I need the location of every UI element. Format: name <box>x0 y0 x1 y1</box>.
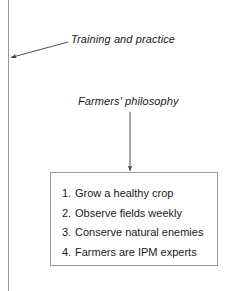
list-item-number: 1. <box>62 184 75 204</box>
training-to-margin-arrow <box>11 42 68 58</box>
list-item-number: 2. <box>62 204 75 224</box>
list-item-number: 3. <box>62 223 75 243</box>
list-item-text: Grow a healthy crop <box>75 187 173 199</box>
list-item-text: Conserve natural enemies <box>75 226 203 238</box>
list-item-number: 4. <box>62 243 75 263</box>
list-item-text: Observe fields weekly <box>75 207 182 219</box>
list-item: 3.Conserve natural enemies <box>62 223 217 243</box>
principles-box: 1.Grow a healthy crop 2.Observe fields w… <box>50 172 218 266</box>
farmers-philosophy-label: Farmers' philosophy <box>78 95 179 107</box>
training-and-practice-label: Training and practice <box>71 33 175 45</box>
principles-list: 1.Grow a healthy crop 2.Observe fields w… <box>51 173 217 262</box>
list-item-text: Farmers are IPM experts <box>75 246 197 258</box>
list-item: 2.Observe fields weekly <box>62 204 217 224</box>
diagram-canvas: Training and practice Farmers' philosoph… <box>0 0 237 291</box>
list-item: 1.Grow a healthy crop <box>62 184 217 204</box>
list-item: 4.Farmers are IPM experts <box>62 243 217 263</box>
